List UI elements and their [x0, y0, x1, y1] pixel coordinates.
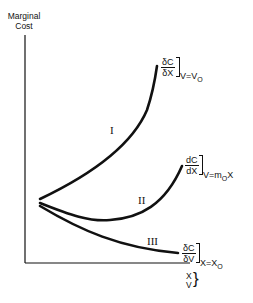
- curve-I-denominator: δX: [161, 68, 175, 78]
- marginal-cost-diagram: Marginal Cost I δC δX V=VO II dC dX V=mO…: [0, 0, 253, 303]
- x-axis-label-line2: V: [186, 281, 192, 290]
- curve-II-fraction: dC dX: [185, 155, 199, 176]
- y-axis-label: Marginal Cost: [2, 11, 46, 31]
- x-axis-label: X V: [186, 272, 192, 290]
- curve-I-label: I: [110, 124, 114, 136]
- curve-II-condition: V=mOX: [203, 170, 233, 182]
- curve-I-condition-text: V=V: [180, 71, 197, 81]
- curve-II-condition-text: V=m: [203, 170, 222, 180]
- curve-I-fraction: δC δX: [161, 57, 175, 78]
- curve-III-condition-text: X=X: [200, 258, 217, 268]
- curve-I: [40, 66, 157, 199]
- y-axis-label-line2: Cost: [2, 21, 46, 31]
- curve-II-condition-tail: X: [227, 170, 233, 180]
- curve-I-condition-sub: O: [197, 76, 202, 83]
- y-axis-label-line1: Marginal: [2, 11, 46, 21]
- curve-II-numerator: dC: [185, 155, 199, 166]
- curve-I-numerator: δC: [161, 57, 175, 68]
- curve-II: [40, 166, 182, 220]
- curve-III-numerator: δC: [182, 243, 196, 254]
- curve-II-denominator: dX: [185, 166, 199, 176]
- curve-III-fraction: δC δV: [182, 243, 196, 264]
- curve-III-label: III: [147, 235, 158, 247]
- curve-III-condition: X=XO: [200, 258, 223, 270]
- x-axis-brace: }: [193, 270, 199, 288]
- curve-III-condition-sub: O: [217, 263, 222, 270]
- curve-III-denominator: δV: [182, 254, 196, 264]
- curve-II-label: II: [138, 194, 145, 206]
- curve-I-condition: V=VO: [180, 71, 203, 83]
